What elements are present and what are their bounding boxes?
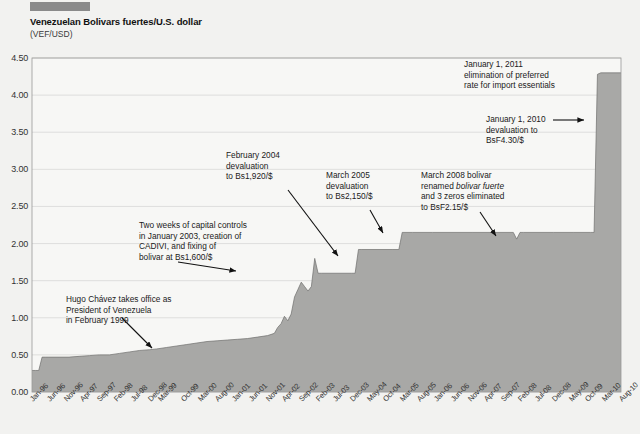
annotation-capital-controls-2003: Two weeks of capital controls in January… [139, 220, 247, 262]
y-axis-tick-label: 2.50 [0, 201, 28, 211]
y-axis-tick-label: 4.00 [0, 90, 28, 100]
annotation-chavez: Hugo Chávez takes office as President of… [66, 294, 171, 326]
annotation-devaluation-2010: January 1, 2010 devaluation to BsF4.30/$ [486, 114, 546, 146]
italic-bolivar-fuerte: bolivar fuerte [456, 181, 504, 191]
y-axis-tick-label: 3.00 [0, 164, 28, 174]
y-axis-tick-label: 4.50 [0, 53, 28, 63]
y-axis-tick-label: 1.00 [0, 313, 28, 323]
annotation-redenomination-2008: March 2008 bolivar renamed bolivar fuert… [421, 170, 504, 212]
y-axis-tick-label: 0.50 [0, 350, 28, 360]
annotation-devaluation-2005: March 2005 devaluation to Bs2,150/$ [326, 170, 373, 202]
y-axis-tick-label: 0.00 [0, 387, 28, 397]
annotation-devaluation-2004: February 2004 devaluation to Bs1,920/$ [226, 150, 280, 182]
y-axis-tick-label: 3.50 [0, 127, 28, 137]
y-axis-tick-label: 1.50 [0, 276, 28, 286]
annotation-preferred-rate-2011: January 1, 2011 elimination of preferred… [464, 59, 555, 91]
y-axis-tick-label: 2.00 [0, 239, 28, 249]
